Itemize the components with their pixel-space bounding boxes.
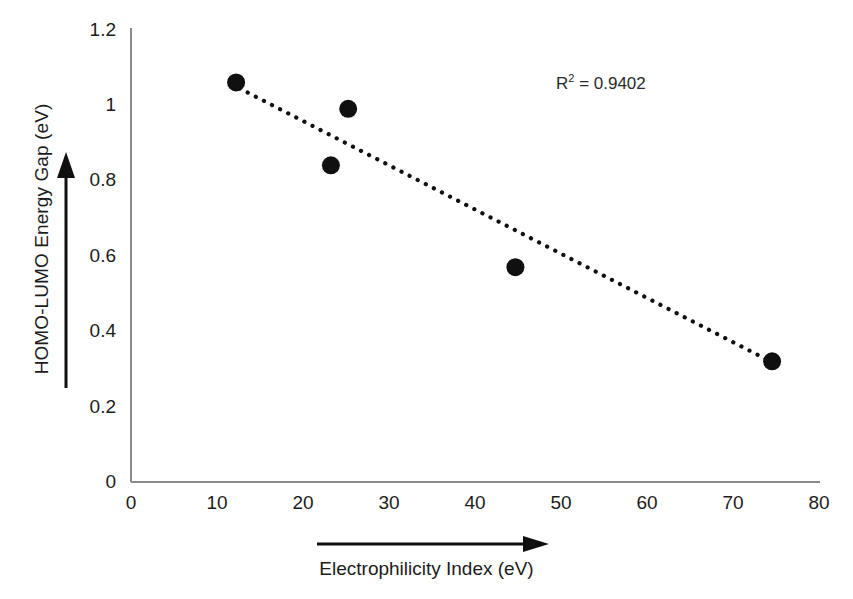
x-tick-label: 40 <box>453 492 497 514</box>
y-tick-label: 0.6 <box>60 245 116 267</box>
x-tick-label: 0 <box>109 492 153 514</box>
x-tick-label: 60 <box>625 492 669 514</box>
y-tick-label: 0.8 <box>60 169 116 191</box>
data-point <box>322 156 340 174</box>
x-axis-title: Electrophilicity Index (eV) <box>0 558 853 580</box>
y-tick-label: 0.4 <box>60 320 116 342</box>
r-squared-value: = 0.9402 <box>574 74 645 93</box>
x-axis-direction-arrow-icon <box>315 534 551 554</box>
data-point <box>227 73 245 91</box>
y-tick-label: 1.2 <box>60 19 116 41</box>
r-squared-prefix: R <box>556 74 568 93</box>
chart-container: HOMO-LUMO Energy Gap (eV) 1.2 1 0.8 0.6 … <box>0 0 853 599</box>
x-tick-label: 70 <box>711 492 755 514</box>
x-tick-label: 20 <box>281 492 325 514</box>
y-tick-label: 0.2 <box>60 396 116 418</box>
x-tick-label: 80 <box>797 492 841 514</box>
x-tick-label: 50 <box>539 492 583 514</box>
data-point <box>339 100 357 118</box>
x-tick-label: 10 <box>195 492 239 514</box>
r-squared-annotation: R2 = 0.9402 <box>556 72 646 94</box>
y-tick-label: 0 <box>60 471 116 493</box>
data-point <box>763 352 781 370</box>
y-tick-label: 1 <box>60 94 116 116</box>
data-point <box>506 258 524 276</box>
x-tick-label: 30 <box>367 492 411 514</box>
trendline <box>240 88 772 362</box>
